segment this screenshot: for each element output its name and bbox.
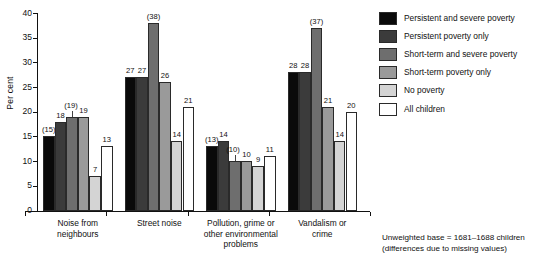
bar xyxy=(78,117,90,211)
bar-value-label: 20 xyxy=(340,102,362,110)
bar xyxy=(206,146,218,210)
bar xyxy=(43,136,55,210)
legend-swatch xyxy=(379,103,397,116)
bar xyxy=(241,161,253,210)
chart-figure: Per cent 0510152025303540 (15)18(19)1971… xyxy=(0,0,533,262)
plot-area: Per cent 0510152025303540 (15)18(19)1971… xyxy=(0,0,375,262)
bar-value-label: 19 xyxy=(73,107,95,115)
legend-swatch xyxy=(379,30,397,43)
legend-label: Short-term poverty only xyxy=(404,68,491,77)
footnote-line-2: (differences due to missing values) xyxy=(382,243,532,254)
x-axis-separator-tick xyxy=(25,212,26,216)
bar-value-label: 13 xyxy=(96,136,118,144)
legend-item[interactable]: Persistent poverty only xyxy=(379,27,531,45)
bar xyxy=(55,122,67,211)
bar xyxy=(148,23,160,211)
bar xyxy=(66,117,78,211)
legend-label: All children xyxy=(404,105,445,114)
bar xyxy=(299,72,311,210)
legend-swatch xyxy=(379,48,397,61)
bar xyxy=(346,112,358,211)
bar-value-label: 14 xyxy=(212,131,234,139)
bar xyxy=(311,28,323,211)
bar-value-label: 21 xyxy=(317,97,339,105)
bar xyxy=(264,156,276,210)
bar xyxy=(125,77,137,210)
bar-value-label: 21 xyxy=(177,97,199,105)
bar xyxy=(171,141,183,210)
bar xyxy=(334,141,346,210)
bar xyxy=(159,82,171,210)
legend-swatch xyxy=(379,84,397,97)
legend-swatch xyxy=(379,12,397,25)
legend-label: No poverty xyxy=(404,86,445,95)
x-axis-separator-tick xyxy=(370,212,371,216)
legend-item[interactable]: No poverty xyxy=(379,82,531,100)
bar xyxy=(229,161,241,210)
bar xyxy=(322,107,334,211)
legend-item[interactable]: All children xyxy=(379,100,531,118)
x-axis-separator-tick xyxy=(269,212,270,216)
bar-value-label: 26 xyxy=(154,72,176,80)
legend-label: Short-term and severe poverty xyxy=(404,50,517,59)
legend: Persistent and severe povertyPersistent … xyxy=(379,9,531,118)
legend-label: Persistent and severe poverty xyxy=(404,14,515,23)
legend-item[interactable]: Short-term and severe poverty xyxy=(379,45,531,63)
x-axis-category-label: Vandalism orcrime xyxy=(272,218,372,239)
bar xyxy=(252,166,264,210)
bar xyxy=(89,176,101,211)
x-axis-separator-tick xyxy=(106,212,107,216)
footnote: Unweighted base = 1681–1688 children (di… xyxy=(382,232,532,254)
legend-swatch xyxy=(379,66,397,79)
legend-item[interactable]: Persistent and severe poverty xyxy=(379,9,531,27)
bar-value-label: (38) xyxy=(143,13,165,21)
bar-value-label: (37) xyxy=(306,18,328,26)
bar xyxy=(101,146,113,210)
legend-item[interactable]: Short-term poverty only xyxy=(379,64,531,82)
legend-label: Persistent poverty only xyxy=(404,32,489,41)
bar xyxy=(136,77,148,210)
bar xyxy=(183,107,195,211)
x-axis-separator-tick xyxy=(188,212,189,216)
bar-value-label: 11 xyxy=(259,146,281,154)
bar xyxy=(288,72,300,210)
footnote-line-1: Unweighted base = 1681–1688 children xyxy=(382,232,532,243)
